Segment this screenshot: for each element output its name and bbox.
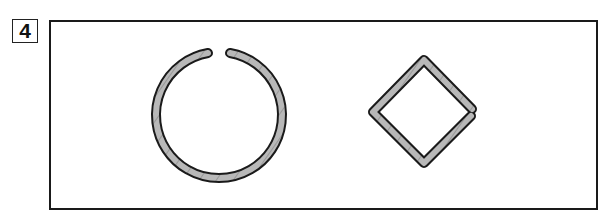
diagram-canvas xyxy=(0,0,614,216)
open-ring-shape xyxy=(156,53,282,178)
open-diamond-shape xyxy=(373,60,472,163)
